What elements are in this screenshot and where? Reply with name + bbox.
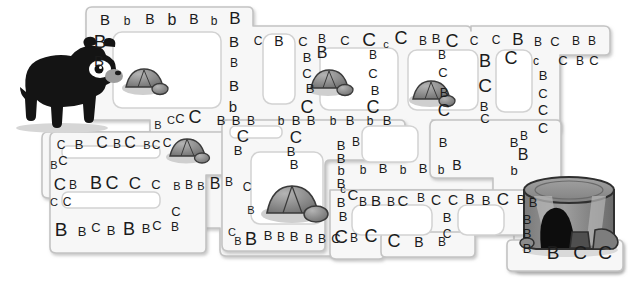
tree-stump-den [520, 177, 618, 257]
maze-path-graphic [0, 0, 628, 285]
maze-worksheet: BbBbBbBBBBBBbCBCBBCCcCBBCBCBCCCBBCBBBCcC… [0, 0, 628, 285]
